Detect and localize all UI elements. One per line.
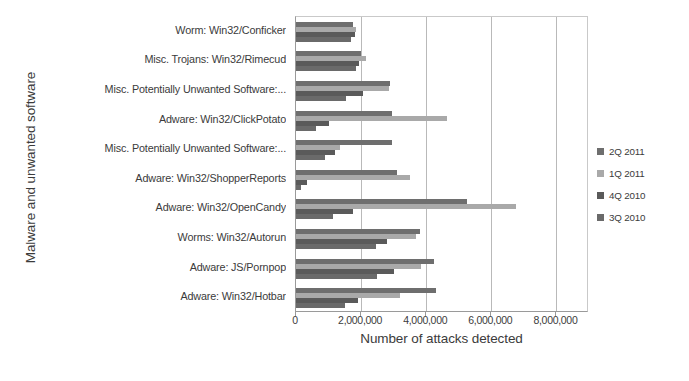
bar-chart: Malware and unwanted software Worm: Win3… [0,0,689,381]
bar-group [296,81,587,101]
x-tick-mark [490,312,491,316]
bar [296,37,351,42]
legend-label: 1Q 2011 [609,168,644,179]
bar [296,96,346,101]
category-label: Misc. Trojans: Win32/Rimecud [28,53,286,65]
legend-swatch-icon [597,170,604,177]
bar [296,155,325,160]
chart-legend: 2Q 20111Q 20114Q 20103Q 2010 [597,140,685,228]
category-label: Adware: Win32/Hotbar [28,290,286,302]
legend-label: 2Q 2011 [609,146,644,157]
bar [296,303,345,308]
category-label: Adware: Win32/OpenCandy [28,201,286,213]
bar-group [296,22,587,42]
bar-group [296,259,587,279]
bar-group [296,288,587,308]
x-axis-title: Number of attacks detected [295,331,588,346]
bar [296,244,376,249]
category-label: Adware: Win32/ClickPotato [28,113,286,125]
x-tick-mark [555,312,556,316]
bar [296,214,333,219]
legend-item[interactable]: 3Q 2010 [597,206,685,228]
bar [296,175,410,180]
legend-swatch-icon [597,148,604,155]
bar-group [296,140,587,160]
legend-item[interactable]: 4Q 2010 [597,184,685,206]
category-label: Adware: Win32/ShopperReports [28,172,286,184]
category-label: Worm: Win32/Conficker [28,24,286,36]
category-label: Misc. Potentially Unwanted Software:... [28,83,286,95]
x-axis-tick-labels: 02,000,0004,000,0006,000,0008,000,000 [0,314,689,330]
bar-group [296,199,587,219]
x-tick-mark [360,312,361,316]
legend-label: 3Q 2010 [609,212,645,223]
legend-label: 4Q 2010 [609,190,645,201]
bar-group [296,170,587,190]
bar [296,185,301,190]
x-tick-mark [425,312,426,316]
category-label: Worms: Win32/Autorun [28,231,286,243]
legend-swatch-icon [597,192,604,199]
bar-group [296,51,587,71]
legend-swatch-icon [597,214,604,221]
legend-item[interactable]: 1Q 2011 [597,162,685,184]
category-label: Adware: JS/Pornpop [28,261,286,273]
bar-group [296,111,587,131]
legend-item[interactable]: 2Q 2011 [597,140,685,162]
category-label: Misc. Potentially Unwanted Software:... [28,142,286,154]
x-tick-mark [295,312,296,316]
bar [296,126,316,131]
category-axis-labels: Worm: Win32/ConfickerMisc. Trojans: Win3… [28,16,290,312]
bar [296,66,356,71]
bar-group [296,229,587,249]
bar [296,274,377,279]
plot-area [295,16,588,312]
